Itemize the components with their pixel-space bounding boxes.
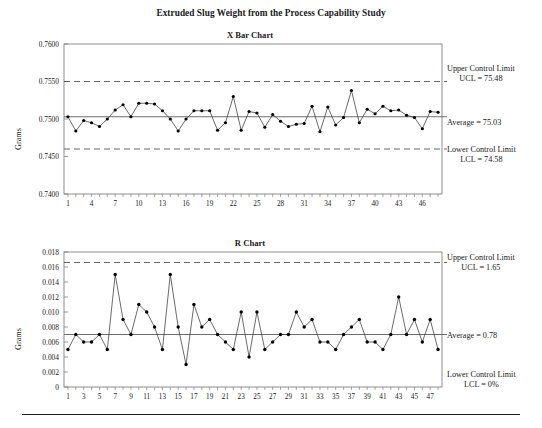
r-ucl-label: Upper Control Limit bbox=[447, 253, 515, 262]
data-point-marker bbox=[90, 121, 93, 124]
data-point-marker bbox=[334, 123, 337, 126]
r-ucl-value: UCL = 1.65 bbox=[447, 263, 515, 273]
data-point-marker bbox=[366, 108, 369, 111]
r-average-annotation: Average = 0.78 bbox=[447, 331, 497, 341]
x-tick-label: 19 bbox=[206, 200, 214, 208]
data-point-marker bbox=[421, 127, 424, 130]
data-point-marker bbox=[177, 129, 180, 132]
x-tick-label: 4 bbox=[90, 200, 94, 208]
x-tick-label: 22 bbox=[230, 200, 238, 208]
y-tick-label: 0.7400 bbox=[39, 190, 60, 199]
x-tick-label: 7 bbox=[113, 200, 117, 208]
data-point-marker bbox=[192, 109, 195, 112]
data-point-marker bbox=[98, 125, 101, 128]
data-point-marker bbox=[145, 102, 148, 105]
data-point-marker bbox=[137, 102, 140, 105]
r-lcl-label: Lower Control Limit bbox=[447, 370, 516, 379]
data-point-marker bbox=[373, 112, 376, 115]
x-tick-label: 28 bbox=[277, 200, 285, 208]
figure-page: Extruded Slug Weight from the Process Ca… bbox=[0, 0, 542, 428]
data-point-marker bbox=[184, 117, 187, 120]
data-point-marker bbox=[161, 109, 164, 112]
data-point-marker bbox=[303, 122, 306, 125]
xbar-ucl-annotation: Upper Control Limit UCL = 75.48 bbox=[447, 64, 515, 85]
x-tick-label: 40 bbox=[371, 200, 379, 208]
data-point-marker bbox=[255, 111, 258, 114]
data-point-marker bbox=[413, 116, 416, 119]
data-point-marker bbox=[66, 115, 69, 118]
data-point-marker bbox=[82, 119, 85, 122]
xbar-ucl-value: UCL = 75.48 bbox=[447, 74, 515, 84]
data-point-marker bbox=[295, 123, 298, 126]
xbar-lcl-label: Lower Control Limit bbox=[447, 145, 516, 154]
x-tick-label: 25 bbox=[253, 200, 261, 208]
data-point-marker bbox=[121, 103, 124, 106]
y-tick-label: 0.7550 bbox=[39, 77, 60, 86]
data-point-marker bbox=[169, 117, 172, 120]
r-lcl-value: LCL = 0% bbox=[447, 380, 516, 390]
x-tick-label: 46 bbox=[419, 200, 427, 208]
data-point-marker bbox=[436, 111, 439, 114]
x-tick-label: 43 bbox=[395, 200, 403, 208]
xbar-ucl-label: Upper Control Limit bbox=[447, 64, 515, 73]
data-point-marker bbox=[397, 108, 400, 111]
bottom-divider-rule bbox=[22, 414, 520, 415]
y-tick-label: 0.7500 bbox=[39, 115, 60, 124]
data-point-marker bbox=[389, 109, 392, 112]
data-point-marker bbox=[200, 109, 203, 112]
data-point-marker bbox=[232, 95, 235, 98]
data-point-marker bbox=[129, 115, 132, 118]
x-tick-label: 10 bbox=[135, 200, 143, 208]
data-point-marker bbox=[114, 108, 117, 111]
data-point-marker bbox=[326, 105, 329, 108]
x-tick-label: 34 bbox=[324, 200, 332, 208]
y-tick-label: 0.7600 bbox=[39, 40, 60, 49]
data-point-marker bbox=[74, 129, 77, 132]
data-point-marker bbox=[429, 110, 432, 113]
data-point-marker bbox=[310, 105, 313, 108]
data-point-marker bbox=[318, 130, 321, 133]
data-point-marker bbox=[287, 125, 290, 128]
r-ucl-annotation: Upper Control Limit UCL = 1.65 bbox=[447, 253, 515, 274]
r-lcl-annotation: Lower Control Limit LCL = 0% bbox=[447, 370, 516, 391]
xbar-lcl-value: LCL = 74.58 bbox=[447, 155, 516, 165]
data-point-marker bbox=[271, 113, 274, 116]
data-point-marker bbox=[216, 129, 219, 132]
data-point-marker bbox=[381, 105, 384, 108]
data-point-marker bbox=[358, 121, 361, 124]
data-point-marker bbox=[279, 120, 282, 123]
data-point-marker bbox=[106, 117, 109, 120]
data-point-marker bbox=[263, 126, 266, 129]
data-point-marker bbox=[405, 114, 408, 117]
x-tick-label: 1 bbox=[66, 200, 70, 208]
xbar-average-annotation: Average = 75.03 bbox=[447, 118, 501, 128]
xbar-lcl-annotation: Lower Control Limit LCL = 74.58 bbox=[447, 145, 516, 166]
data-point-marker bbox=[247, 110, 250, 113]
y-tick-label: 0.7450 bbox=[39, 152, 60, 161]
data-point-marker bbox=[153, 102, 156, 105]
data-point-marker bbox=[240, 129, 243, 132]
x-tick-label: 37 bbox=[348, 200, 356, 208]
data-point-marker bbox=[224, 121, 227, 124]
x-tick-label: 31 bbox=[301, 200, 309, 208]
data-point-marker bbox=[342, 116, 345, 119]
data-point-marker bbox=[350, 89, 353, 92]
x-tick-label: 16 bbox=[182, 200, 190, 208]
x-tick-label: 13 bbox=[159, 200, 167, 208]
data-point-marker bbox=[208, 109, 211, 112]
